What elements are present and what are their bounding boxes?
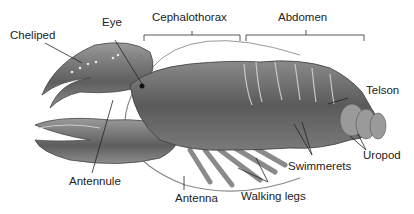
label-swimmerets: Swimmerets — [288, 161, 351, 173]
section-brackets — [144, 30, 364, 41]
label-abdomen: Abdomen — [278, 12, 327, 24]
label-uropod: Uropod — [363, 150, 401, 162]
lobster-illustration — [0, 0, 414, 214]
label-cephalothorax: Cephalothorax — [152, 12, 227, 24]
label-cheliped: Cheliped — [10, 30, 55, 42]
label-telson: Telson — [366, 85, 399, 97]
label-antennule: Antennule — [69, 176, 121, 188]
label-antenna: Antenna — [175, 193, 218, 205]
label-walking-legs: Walking legs — [241, 191, 306, 203]
body-shape — [130, 61, 380, 150]
eye-shape — [140, 84, 145, 89]
walking-legs-shape — [190, 145, 285, 185]
label-eye: Eye — [102, 17, 122, 29]
